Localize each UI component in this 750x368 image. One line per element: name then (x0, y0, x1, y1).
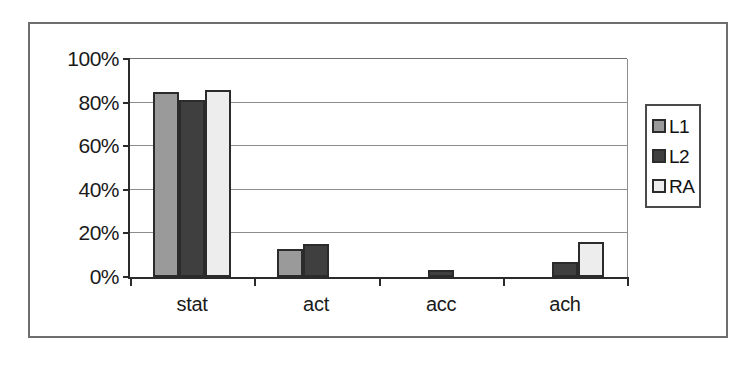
bar-acc-l2 (428, 270, 454, 277)
y-axis-label: 60% (78, 134, 119, 158)
y-axis-tick (123, 102, 130, 104)
gridline (130, 58, 627, 59)
x-axis-tick (503, 277, 505, 286)
y-axis-tick (123, 145, 130, 147)
y-axis-label: 40% (78, 178, 119, 202)
y-axis-tick (123, 58, 130, 60)
bar-ach-l2 (552, 262, 578, 277)
x-axis-tick (130, 277, 132, 286)
y-axis-tick (123, 276, 130, 278)
x-axis-label: acc (426, 293, 456, 316)
bar-stat-l2 (179, 100, 205, 277)
bar-stat-ra (205, 90, 231, 277)
bar-act-l2 (303, 244, 329, 277)
plot-right-border (627, 59, 628, 277)
y-axis-tick (123, 189, 130, 191)
y-axis-label: 80% (78, 91, 119, 115)
y-axis-label: 0% (90, 265, 119, 289)
legend-label-l2: L2 (669, 147, 689, 166)
chart-figure-frame: 0%20%40%60%80%100% statactaccach (28, 22, 728, 338)
x-axis-tick (627, 277, 629, 286)
bar-ach-ra (578, 242, 604, 277)
bar-stat-l1 (153, 92, 179, 277)
x-axis-tick (379, 277, 381, 286)
x-axis-label: act (303, 293, 329, 316)
x-axis-label: ach (549, 293, 580, 316)
legend-swatch-l2 (652, 149, 666, 163)
legend-item-l2: L2 (652, 141, 699, 171)
legend-item-ra: RA (652, 171, 699, 201)
y-axis-label: 100% (67, 47, 119, 71)
legend-item-l1: L1 (652, 111, 699, 141)
bar-act-l1 (277, 249, 303, 277)
legend-label-ra: RA (669, 177, 694, 196)
x-axis-label: stat (176, 293, 207, 316)
chart-legend: L1 L2 RA (645, 104, 701, 208)
legend-swatch-ra (652, 179, 666, 193)
legend-label-l1: L1 (669, 117, 689, 136)
y-axis-tick (123, 232, 130, 234)
x-axis-tick (254, 277, 256, 286)
y-axis-label: 20% (78, 221, 119, 245)
legend-swatch-l1 (652, 119, 666, 133)
plot-area: 0%20%40%60%80%100% statactaccach (128, 59, 627, 279)
